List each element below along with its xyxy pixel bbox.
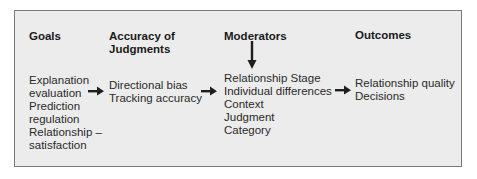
- right-arrow-icon: [88, 86, 104, 96]
- accuracy-item: Tracking accuracy: [109, 92, 202, 105]
- moderators-item: Individual differences: [224, 85, 332, 98]
- outcomes-list: Relationship quality Decisions: [355, 77, 455, 103]
- accuracy-item: Directional bias: [109, 79, 202, 92]
- accuracy-list: Directional bias Tracking accuracy: [109, 79, 202, 105]
- goals-item: satisfaction: [29, 139, 102, 152]
- moderators-item: Category: [224, 124, 332, 137]
- goals-item: Relationship –: [29, 126, 102, 139]
- goals-heading: Goals: [29, 30, 61, 43]
- right-arrow-icon: [335, 85, 351, 95]
- moderators-item: Relationship Stage: [224, 72, 332, 85]
- goals-item: regulation: [29, 113, 102, 126]
- moderators-item: Judgment: [224, 111, 332, 124]
- moderators-list: Relationship Stage Individual difference…: [224, 72, 332, 137]
- right-arrow-icon: [201, 86, 217, 96]
- accuracy-heading-line1: Accuracy of: [109, 30, 175, 43]
- moderators-item: Context: [224, 98, 332, 111]
- outcomes-heading: Outcomes: [355, 29, 411, 42]
- accuracy-heading: Accuracy of Judgments: [109, 30, 175, 56]
- outcomes-item: Relationship quality: [355, 77, 455, 90]
- down-arrow-icon: [247, 41, 257, 69]
- accuracy-heading-line2: Judgments: [109, 43, 175, 56]
- goals-item: Prediction: [29, 100, 102, 113]
- outcomes-item: Decisions: [355, 90, 455, 103]
